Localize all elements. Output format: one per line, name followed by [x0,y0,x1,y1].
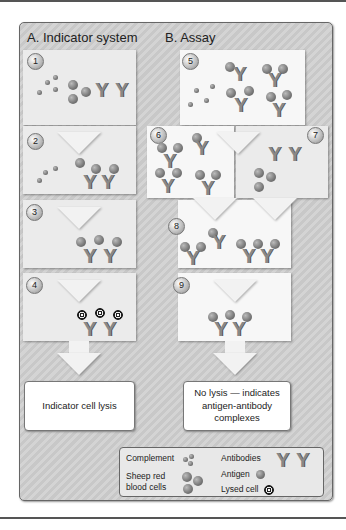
top-rule [0,0,346,2]
antibody-icon: Y [288,144,301,164]
complement-icon [188,461,193,466]
step-number: 4 [26,277,43,294]
header-assay: B. Assay [165,30,216,45]
complement-icon [53,75,58,80]
complement-icon [37,178,42,183]
legend-srbc-label-2: blood cells [126,483,166,493]
antibody-icon: Y [115,80,128,100]
antibody-icon: Y [186,248,199,268]
antibody-icon: Y [234,95,247,115]
antibody-icon: Y [232,319,245,339]
antibody-icon: Y [95,80,108,100]
flow-arrow [57,353,101,375]
antibody-icon: Y [272,100,285,120]
flow-arrow [253,198,297,220]
flow-arrow [216,132,260,154]
complement-icon [43,170,48,175]
flow-arrow [193,198,237,220]
antibody-icon: Y [276,450,289,470]
step-number: 1 [27,53,44,70]
antibody-icon: Y [268,144,281,164]
header-indicator-system: A. Indicator system [27,30,138,45]
complement-icon [45,80,50,85]
flow-arrow-stem [225,341,245,353]
sheep-rbc-icon [193,476,203,486]
step-number: 7 [307,127,324,144]
antibody-icon: Y [195,138,208,158]
antibody-icon: Y [161,176,174,196]
legend-srbc-label-1: Sheep red [126,472,165,482]
flow-arrow-stem [69,341,89,353]
complement-icon [210,84,215,89]
complement-icon [37,90,42,95]
step-number: 5 [182,53,199,70]
sheep-rbc-icon [68,94,78,104]
antibody-icon: Y [233,64,246,84]
sheep-rbc-icon [254,182,264,192]
complement-icon [204,98,209,103]
sheep-rbc-icon [182,472,192,482]
antibody-icon: Y [83,319,96,339]
flow-arrow [213,280,257,302]
legend-antigen-label: Antigen [221,470,250,480]
step-number: 3 [26,204,43,221]
flow-arrow [57,280,101,302]
sheep-rbc-icon [266,172,276,182]
sheep-rbc-icon [75,158,85,168]
flow-arrow [57,132,101,154]
sheep-rbc-icon [254,168,264,178]
flow-arrow [213,353,257,375]
antibody-icon: Y [201,178,214,198]
antigen-icon [256,470,265,479]
complement-icon [53,166,58,171]
sheep-rbc-icon [183,484,193,494]
antibody-icon: Y [103,319,116,339]
lysed-cell-icon [95,308,105,318]
step-number: 2 [27,133,44,150]
complement-icon [189,454,194,459]
lysed-cell-icon [264,485,274,495]
flow-arrow [57,207,101,229]
sheep-rbc-icon [68,80,78,90]
legend-lysed-label: Lysed cell [221,485,258,495]
sheep-rbc-icon [81,87,91,97]
step-5-panel: 5 Y Y Y Y [180,50,305,125]
bottom-rule [0,517,346,519]
legend: Complement Sheep red blood cells Antibod… [119,447,324,497]
step-number: 9 [173,277,190,294]
result-no-lysis: No lysis — indicates antigen-antibody co… [183,381,291,431]
antibody-icon: Y [214,319,227,339]
step-number: 8 [168,218,185,235]
antibody-icon: Y [83,246,96,266]
step-1-panel: 1 Y Y [23,50,136,125]
antibody-icon: Y [101,172,114,192]
antibody-icon: Y [260,246,273,266]
complement-icon [188,102,193,107]
complement-icon [183,457,188,462]
legend-antibodies-label: Antibodies [221,454,261,464]
antibody-icon: Y [83,172,96,192]
legend-complement-label: Complement [126,454,174,464]
antibody-icon: Y [212,232,225,252]
result-indicator-lysis: Indicator cell lysis [24,381,135,431]
antibody-icon: Y [103,246,116,266]
complement-icon [53,87,58,92]
antibody-icon: Y [242,246,255,266]
complement-icon [194,88,199,93]
antibody-icon: Y [296,450,309,470]
sheep-rbc-icon [94,235,104,245]
antibody-icon: Y [268,70,281,90]
step-number: 6 [150,127,167,144]
